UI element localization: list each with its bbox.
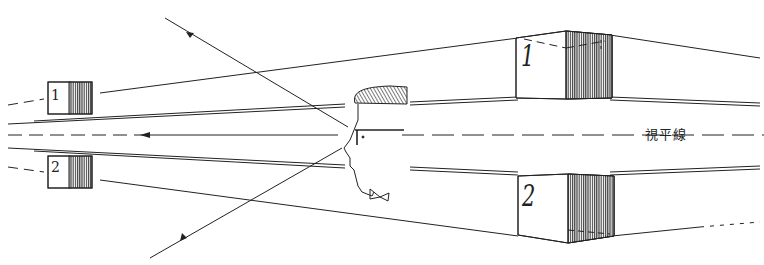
arrow-down-left-icon <box>180 233 187 241</box>
large-box-1-label: 1 <box>521 38 534 73</box>
eye-level-label: 視平線 <box>645 124 687 143</box>
small-box-2-label: 2 <box>51 159 60 175</box>
face-profile <box>344 86 407 201</box>
small-box-1-label: 1 <box>51 87 60 103</box>
arrow-left-icon <box>140 132 150 138</box>
view-angle-lines <box>150 18 348 258</box>
large-box-2-label: 2 <box>522 178 535 213</box>
